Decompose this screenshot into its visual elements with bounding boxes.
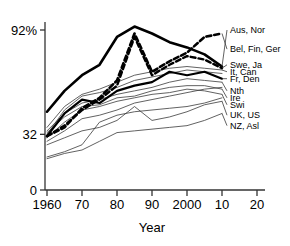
series-line — [47, 113, 222, 158]
series-label: Bel, Fin, Ger — [230, 44, 281, 54]
y-tick-label: 0 — [30, 183, 37, 198]
series-lines — [47, 27, 222, 159]
line-chart: 03292%196070809020001020YearAus, NorBel,… — [0, 0, 290, 246]
x-axis-ticks: 196070809020001020 — [33, 190, 265, 212]
x-tick-label: 70 — [75, 197, 89, 212]
series-label: Swi — [230, 100, 245, 110]
series-line — [47, 86, 222, 133]
series-line — [47, 87, 222, 141]
y-tick-label: 92% — [11, 23, 37, 38]
x-tick-label: 20 — [250, 197, 264, 212]
series-label: NZ, Asl — [230, 121, 259, 131]
leader-line — [222, 70, 227, 72]
x-tick-label: 2000 — [173, 197, 202, 212]
chart-canvas: 03292%196070809020001020YearAus, NorBel,… — [0, 0, 290, 246]
series-labels: Aus, NorBel, Fin, GerSwe, JaIt, CanFr, D… — [230, 25, 281, 131]
x-tick-label: 80 — [110, 197, 124, 212]
series-label: Aus, Nor — [230, 25, 265, 35]
y-tick-label: 32 — [23, 127, 37, 142]
x-tick-label: 90 — [145, 197, 159, 212]
leader-line — [222, 113, 227, 125]
series-label: Fr, Den — [230, 74, 260, 84]
x-tick-label: 1960 — [33, 197, 62, 212]
leader-line — [222, 82, 227, 91]
leader-lines — [222, 30, 227, 126]
y-axis-ticks: 03292% — [11, 23, 45, 198]
series-label: UK, US — [230, 110, 260, 120]
x-tick-label: 10 — [215, 197, 229, 212]
x-axis-title: Year — [139, 220, 166, 235]
